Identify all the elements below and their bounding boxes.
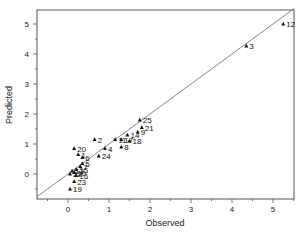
point-label: 18 bbox=[133, 137, 142, 146]
x-axis-title: Observed bbox=[145, 218, 184, 228]
point-label: 2 bbox=[98, 136, 103, 145]
point-label: 21 bbox=[145, 124, 154, 133]
x-tick-label: 4 bbox=[230, 205, 235, 214]
y-axis: 012345 bbox=[25, 20, 37, 189]
y-tick-label: 3 bbox=[25, 80, 30, 89]
x-tick-label: 5 bbox=[271, 205, 276, 214]
x-tick-label: 0 bbox=[66, 205, 71, 214]
point-label: 24 bbox=[102, 152, 111, 161]
point-label: 12 bbox=[286, 20, 295, 29]
y-tick-label: 4 bbox=[25, 50, 30, 59]
y-tick-label: 2 bbox=[25, 110, 30, 119]
y-tick-label: 5 bbox=[25, 20, 30, 29]
point-label: 9 bbox=[141, 128, 146, 137]
scatter-chart: 012345 012345 12325219141817118242420165… bbox=[0, 0, 308, 236]
x-axis: 012345 bbox=[48, 199, 294, 214]
y-tick-label: 1 bbox=[25, 140, 30, 149]
x-tick-label: 3 bbox=[189, 205, 194, 214]
x-tick-label: 1 bbox=[107, 205, 112, 214]
x-tick-label: 2 bbox=[148, 205, 153, 214]
point-label: 19 bbox=[73, 185, 82, 194]
point-label: 3 bbox=[249, 42, 254, 51]
point-label: 8 bbox=[124, 143, 129, 152]
y-tick-label: 0 bbox=[25, 170, 30, 179]
y-axis-title: Predicted bbox=[4, 86, 14, 124]
